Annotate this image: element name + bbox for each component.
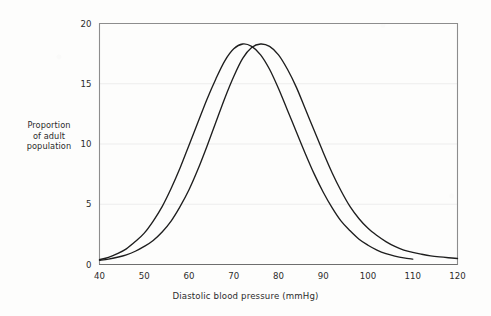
x-tick-label: 50	[139, 271, 150, 281]
x-tick-label: 100	[360, 271, 376, 281]
x-tick-label: 90	[318, 271, 329, 281]
x-axis-ticks: 405060708090100110120	[94, 271, 466, 281]
x-tick-label: 80	[273, 271, 284, 281]
chart-figure: Proportion of adult population 05101520 …	[0, 0, 491, 316]
plot-area: 05101520 405060708090100110120	[0, 0, 491, 316]
y-tick-label: 20	[81, 19, 92, 29]
gridlines	[100, 24, 458, 205]
x-tick-label: 120	[449, 271, 465, 281]
x-tick-label: 40	[94, 271, 105, 281]
x-tick-label: 110	[405, 271, 421, 281]
y-tick-label: 15	[81, 79, 92, 89]
data-series	[100, 44, 458, 260]
series-line-curve-right	[100, 44, 458, 260]
series-line-curve-left	[100, 44, 413, 260]
x-tick-label: 60	[184, 271, 195, 281]
x-axis-title: Diastolic blood pressure (mmHg)	[0, 291, 491, 301]
y-tick-label: 0	[86, 260, 91, 270]
x-tick-label: 70	[228, 271, 239, 281]
y-tick-label: 5	[86, 199, 91, 209]
y-axis-ticks: 05101520	[81, 19, 92, 270]
y-tick-label: 10	[81, 139, 92, 149]
